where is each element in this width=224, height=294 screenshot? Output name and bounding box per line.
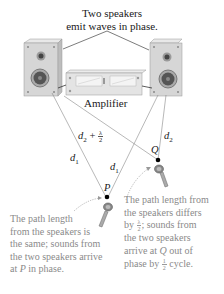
label-d1-right: d1 bbox=[110, 161, 119, 175]
listener-q bbox=[155, 158, 169, 187]
path-d2 bbox=[158, 95, 166, 160]
note-p: The path length from the speakers is the… bbox=[10, 213, 102, 276]
caption-pointer-right bbox=[107, 31, 149, 50]
point-q-dot bbox=[156, 158, 161, 163]
label-d2-plus-half-lambda: d2 + λ2 bbox=[78, 130, 103, 144]
top-caption-line2: emit waves in phase. bbox=[0, 20, 224, 33]
label-d2: d2 bbox=[164, 130, 173, 144]
label-d1-left: d1 bbox=[70, 152, 79, 166]
label-point-p: P bbox=[104, 182, 110, 193]
note-q: The path length from the speakers differ… bbox=[124, 194, 209, 271]
label-point-q: Q bbox=[151, 144, 159, 155]
top-caption-line1: Two speakers bbox=[0, 7, 224, 20]
fraction-lambda-over-2: λ2 bbox=[98, 130, 103, 143]
left-speaker bbox=[24, 39, 62, 96]
point-p-dot bbox=[105, 195, 110, 200]
amplifier-label: Amplifier bbox=[84, 97, 127, 109]
right-speaker bbox=[150, 39, 182, 96]
arrow-note-p bbox=[74, 198, 100, 211]
amplifier bbox=[66, 70, 146, 95]
top-caption: Two speakers emit waves in phase. bbox=[0, 7, 224, 32]
caption-pointer-left bbox=[63, 31, 107, 49]
